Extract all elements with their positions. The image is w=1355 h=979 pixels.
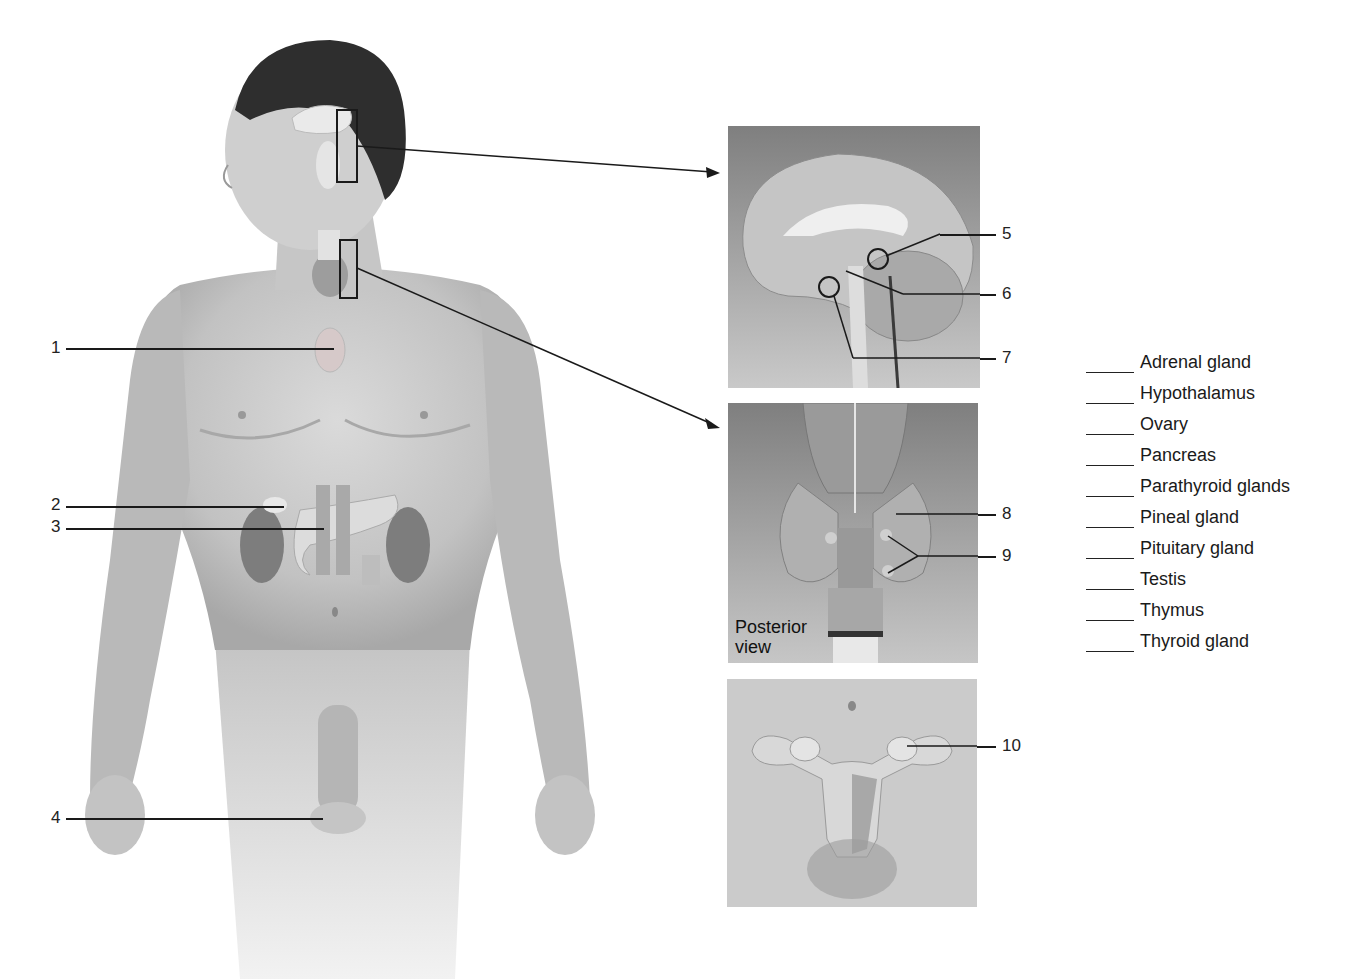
answer-blank[interactable] (1086, 633, 1134, 652)
label-number-8: 8 (1002, 505, 1011, 523)
term-label: Pituitary gland (1140, 538, 1254, 559)
answer-blank[interactable] (1086, 540, 1134, 559)
answer-blank[interactable] (1086, 354, 1134, 373)
term-label: Thymus (1140, 600, 1204, 621)
word-bank-item: Hypothalamus (1086, 373, 1290, 404)
answer-blank[interactable] (1086, 416, 1134, 435)
leader-line-1 (66, 348, 334, 350)
term-label: Testis (1140, 569, 1186, 590)
leader-line-9 (978, 556, 996, 558)
female-pelvis-panel (727, 679, 977, 907)
term-label: Adrenal gland (1140, 352, 1251, 373)
label-number-9: 9 (1002, 547, 1011, 565)
brain-illustration (728, 126, 980, 388)
term-label: Ovary (1140, 414, 1188, 435)
answer-blank[interactable] (1086, 602, 1134, 621)
term-label: Parathyroid glands (1140, 476, 1290, 497)
label-number-7: 7 (1002, 349, 1011, 367)
word-bank-item: Adrenal gland (1086, 342, 1290, 373)
answer-blank[interactable] (1086, 571, 1134, 590)
leader-line-7 (980, 358, 996, 360)
word-bank: Adrenal gland Hypothalamus Ovary Pancrea… (1086, 342, 1290, 652)
word-bank-item: Thymus (1086, 590, 1290, 621)
word-bank-item: Thyroid gland (1086, 621, 1290, 652)
answer-blank[interactable] (1086, 509, 1134, 528)
label-number-1: 1 (51, 339, 60, 357)
leader-line-3 (66, 528, 324, 530)
term-label: Pancreas (1140, 445, 1216, 466)
label-number-10: 10 (1002, 737, 1021, 755)
posterior-view-caption-line2: view (735, 638, 771, 656)
posterior-view-caption-line1: Posterior (735, 618, 807, 636)
label-number-3: 3 (51, 518, 60, 536)
word-bank-item: Pituitary gland (1086, 528, 1290, 559)
label-number-2: 2 (51, 496, 60, 514)
leader-line-4 (66, 818, 323, 820)
leader-line-10 (977, 746, 996, 748)
term-label: Hypothalamus (1140, 383, 1255, 404)
answer-blank[interactable] (1086, 478, 1134, 497)
term-label: Pineal gland (1140, 507, 1239, 528)
word-bank-item: Parathyroid glands (1086, 466, 1290, 497)
word-bank-item: Testis (1086, 559, 1290, 590)
label-number-4: 4 (51, 809, 60, 827)
label-number-6: 6 (1002, 285, 1011, 303)
word-bank-item: Ovary (1086, 404, 1290, 435)
word-bank-item: Pineal gland (1086, 497, 1290, 528)
leader-line-6 (980, 294, 996, 296)
brain-sagittal-panel (728, 126, 980, 388)
leader-line-8 (978, 514, 996, 516)
answer-blank[interactable] (1086, 385, 1134, 404)
ovary-uterus-illustration (727, 679, 977, 907)
leader-line-2 (66, 506, 284, 508)
answer-blank[interactable] (1086, 447, 1134, 466)
human-body-illustration (0, 0, 720, 979)
label-number-5: 5 (1002, 225, 1011, 243)
term-label: Thyroid gland (1140, 631, 1249, 652)
word-bank-item: Pancreas (1086, 435, 1290, 466)
leader-line-5 (940, 234, 996, 236)
